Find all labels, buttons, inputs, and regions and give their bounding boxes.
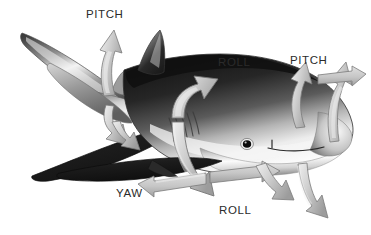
label-pitch-tail: PITCH bbox=[86, 9, 124, 21]
label-yaw: YAW bbox=[116, 188, 143, 200]
arrow-pitch-tail-up bbox=[100, 30, 122, 96]
label-pitch-head: PITCH bbox=[290, 55, 328, 67]
label-roll-belly: ROLL bbox=[219, 205, 251, 217]
motion-arrows bbox=[0, 0, 371, 235]
shark-axes-diagram: PITCH ROLL PITCH YAW ROLL bbox=[0, 0, 371, 235]
arrow-roll-midbody-upper bbox=[172, 76, 218, 118]
arrow-roll-belly-right bbox=[297, 163, 328, 218]
label-roll-dorsal: ROLL bbox=[218, 57, 250, 69]
arrow-yaw-left bbox=[138, 172, 206, 197]
arrow-pitch-head-up-inner bbox=[291, 62, 312, 128]
